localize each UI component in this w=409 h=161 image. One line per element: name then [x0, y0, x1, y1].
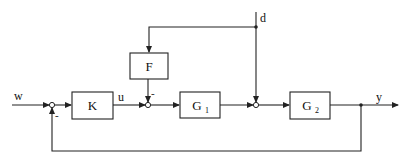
block-g2-subscript: 2: [315, 106, 319, 115]
disturbance-branch-point: [254, 25, 258, 29]
output-signal-label: y: [376, 90, 382, 104]
control-signal-label: u: [118, 90, 124, 104]
block-g1: G 1: [180, 92, 220, 118]
block-g1-label: G: [192, 98, 201, 113]
block-g1-subscript: 1: [205, 106, 209, 115]
disturbance-signal-label: d: [260, 11, 266, 25]
block-g2-label: G: [302, 98, 311, 113]
feedforward-minus-sign: -: [151, 87, 155, 99]
block-f-label: F: [145, 59, 152, 74]
block-f: F: [130, 53, 168, 79]
block-k-label: K: [88, 98, 98, 113]
reference-signal-label: w: [14, 89, 23, 103]
summing-junction-3: [253, 102, 258, 107]
block-diagram: w - K u - F G 1 d G 2: [0, 0, 409, 161]
disturbance-to-f-wire: [149, 27, 256, 52]
summing-junction-1: [49, 102, 54, 107]
summing-junction-2: [145, 102, 150, 107]
feedback-minus-sign: -: [55, 109, 59, 121]
block-k: K: [72, 92, 113, 119]
block-g2: G 2: [290, 92, 330, 119]
